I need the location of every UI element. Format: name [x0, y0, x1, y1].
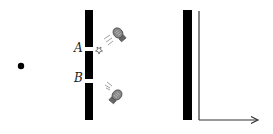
slit-label-a: A [74, 42, 83, 54]
barrier-bottom-segment [85, 83, 93, 120]
barrier-middle-segment [85, 51, 93, 79]
slit-label-b: B [74, 72, 83, 84]
intensity-axes [199, 11, 258, 124]
barrier-top-segment [85, 10, 93, 47]
light-rays-a [104, 35, 113, 45]
flash-icon [96, 47, 103, 54]
slit-barrier [85, 10, 93, 120]
detection-screen [183, 10, 192, 120]
double-slit-diagram [0, 0, 273, 134]
detector-lamp-b-icon [108, 88, 124, 105]
point-source [18, 63, 24, 69]
detector-lamp-a-icon [111, 26, 127, 43]
light-rays-b [105, 82, 112, 90]
